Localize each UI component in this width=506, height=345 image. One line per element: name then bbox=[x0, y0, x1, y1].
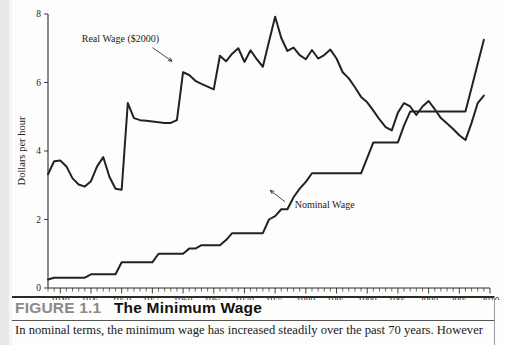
figure-number: FIGURE 1.1 bbox=[15, 299, 101, 316]
caption-mid-rule bbox=[12, 320, 494, 321]
y-tick-label: 2 bbox=[36, 215, 41, 225]
y-tick-label: 4 bbox=[36, 146, 41, 156]
figure-caption-body: In nominal terms, the minimum wage has i… bbox=[15, 323, 493, 337]
annotation-label: Real Wage ($2000) bbox=[82, 33, 159, 45]
y-axis-title: Dollars per hour bbox=[16, 116, 27, 185]
figure-title-text: The Minimum Wage bbox=[114, 299, 262, 316]
annotation-label: Nominal Wage bbox=[295, 199, 355, 210]
figure-caption-title: FIGURE 1.1 The Minimum Wage bbox=[15, 299, 262, 317]
real-wage-annotation: Real Wage ($2000) bbox=[82, 33, 172, 61]
minimum-wage-line-chart: 0246819401945195019551960196519701975198… bbox=[12, 0, 506, 300]
y-tick-label: 8 bbox=[36, 9, 41, 19]
annotation-leader-line bbox=[152, 48, 172, 62]
nominal-wage-annotation: Nominal Wage bbox=[270, 190, 355, 210]
y-tick-label: 0 bbox=[36, 283, 41, 293]
y-axis-ticks: 02468 bbox=[36, 9, 48, 293]
caption-right-rule bbox=[494, 296, 495, 345]
annotation-leader-line bbox=[270, 190, 285, 201]
page-background: 0246819401945195019551960196519701975198… bbox=[0, 0, 506, 345]
caption-top-rule bbox=[12, 296, 494, 298]
y-tick-label: 6 bbox=[36, 78, 41, 88]
figure-caption-block: FIGURE 1.1 The Minimum Wage In nominal t… bbox=[12, 296, 506, 345]
nominal-wage-line bbox=[48, 40, 484, 280]
figure-plot-area: 0246819401945195019551960196519701975198… bbox=[12, 0, 506, 345]
